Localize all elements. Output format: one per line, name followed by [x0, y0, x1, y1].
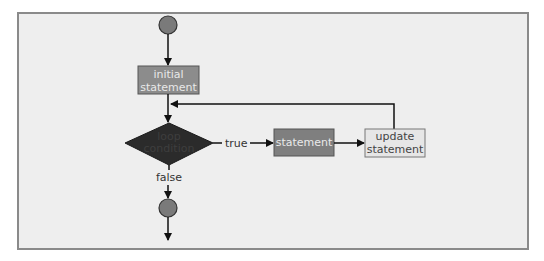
statement-label: statement	[276, 136, 333, 149]
arrow-update-to-condition	[171, 104, 394, 129]
loop-condition-node: loop condition	[125, 123, 213, 165]
condition-label-line2: condition	[144, 142, 195, 155]
true-label: true	[225, 137, 248, 150]
false-label: false	[156, 171, 182, 184]
update-statement-node: update statement	[365, 129, 425, 157]
flowchart: initial statement loop condition true st…	[0, 0, 544, 261]
update-label-line1: update	[376, 130, 415, 143]
end-node	[159, 199, 177, 217]
initial-label-line1: initial	[153, 68, 183, 81]
initial-label-line2: statement	[140, 81, 197, 94]
initial-statement-node: initial statement	[138, 66, 199, 94]
statement-node: statement	[274, 129, 334, 156]
start-node	[159, 16, 177, 34]
update-label-line2: statement	[367, 143, 424, 156]
